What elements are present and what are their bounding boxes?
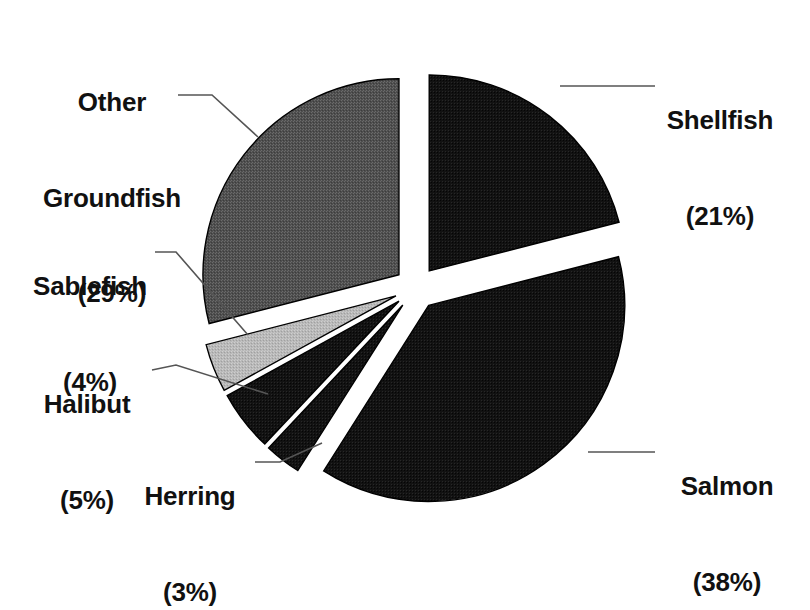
- slice-label-herring-name: Herring: [124, 481, 256, 513]
- slice-value-herring: (3%): [124, 577, 256, 609]
- slice-label-shellfish-name: Shellfish: [645, 105, 795, 137]
- slice-value-salmon: (38%): [660, 567, 794, 599]
- slice-label-salmon: Salmon (38%): [660, 408, 794, 610]
- slice-label-sablefish-name: Sablefish: [20, 271, 160, 303]
- pie-slices-group: [203, 75, 625, 501]
- slice-value-shellfish: (21%): [645, 201, 795, 233]
- slice-label-salmon-name: Salmon: [660, 471, 794, 503]
- slice-label-herring: Herring (3%): [124, 418, 256, 610]
- pie-slice-salmon[interactable]: [324, 257, 625, 502]
- slice-label-shellfish: Shellfish (21%): [645, 42, 795, 296]
- slice-label-halibut-name: Halibut: [22, 389, 152, 421]
- slice-label-other-groundfish-line1: Other: [22, 87, 202, 119]
- pie-slice-other-groundfish[interactable]: [203, 79, 399, 324]
- pie-slice-shellfish[interactable]: [429, 75, 619, 271]
